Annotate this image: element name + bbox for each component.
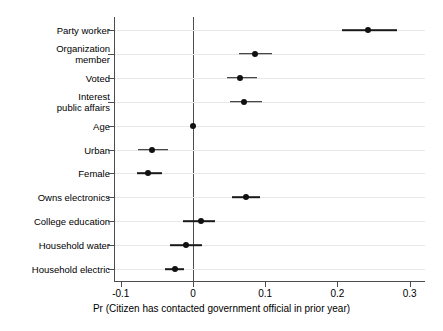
point-estimate-marker [183, 242, 189, 248]
point-estimate-marker [145, 170, 151, 176]
y-axis-tick-label: Owns electronics [0, 192, 110, 203]
point-estimate-marker [241, 99, 247, 105]
gridline [115, 245, 425, 246]
y-axis-tick [108, 197, 114, 198]
x-axis-tick [410, 282, 411, 287]
y-axis-tick-label: Interest public affairs [0, 91, 110, 113]
gridline [115, 78, 425, 79]
x-axis-tick-label: 0.1 [258, 288, 272, 300]
y-axis-tick-label: Organization member [0, 43, 110, 65]
y-axis-tick-label: Household water [0, 240, 110, 251]
y-axis-tick [108, 78, 114, 79]
x-axis-tick [337, 282, 338, 287]
x-axis-tick [265, 282, 266, 287]
y-axis-tick [108, 54, 114, 55]
coefficient-plot-figure: Party workerOrganization memberVotedInte… [0, 0, 443, 331]
y-axis-tick-label: Voted [0, 72, 110, 83]
gridline [115, 126, 425, 127]
y-axis-tick [108, 102, 114, 103]
x-axis-tick [121, 282, 122, 287]
y-axis-tick-label: College education [0, 216, 110, 227]
y-axis-tick [108, 173, 114, 174]
y-axis-tick [108, 150, 114, 151]
y-axis-category-labels: Party workerOrganization memberVotedInte… [0, 0, 110, 331]
gridline [115, 102, 425, 103]
y-axis-tick-label: Female [0, 168, 110, 179]
y-axis-tick [108, 126, 114, 127]
point-estimate-marker [365, 27, 371, 33]
y-axis-tick-label: Party worker [0, 24, 110, 35]
point-estimate-marker [237, 75, 243, 81]
x-axis-spine [114, 281, 425, 282]
point-estimate-marker [243, 194, 249, 200]
x-axis-tick [193, 282, 194, 287]
y-axis-tick [108, 245, 114, 246]
point-estimate-marker [149, 147, 155, 153]
gridline [115, 197, 425, 198]
point-estimate-marker [172, 266, 178, 272]
y-axis-tick-label: Urban [0, 144, 110, 155]
x-axis-title: Pr (Citizen has contacted government off… [0, 303, 443, 314]
point-estimate-marker [252, 51, 258, 57]
x-axis-tick-label: -0.1 [112, 288, 129, 300]
y-axis-tick [108, 269, 114, 270]
x-axis-tick-label: 0 [190, 288, 196, 300]
point-estimate-marker [190, 123, 196, 129]
gridline [115, 221, 425, 222]
x-axis-tick-label: 0.2 [330, 288, 344, 300]
y-axis-tick-label: Household electric [0, 264, 110, 275]
y-axis-tick [108, 221, 114, 222]
y-axis-tick [108, 30, 114, 31]
point-estimate-marker [198, 218, 204, 224]
x-axis-tick-label: 0.3 [403, 288, 417, 300]
y-axis-tick-label: Age [0, 120, 110, 131]
gridline [115, 269, 425, 270]
